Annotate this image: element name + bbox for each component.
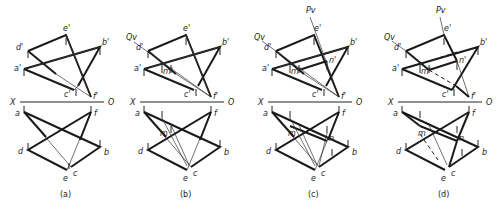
label-b-prime: b' [480,38,487,47]
axis-label-o: O [486,98,492,107]
label-pv: Pv [306,6,316,15]
label-m-prime: m' [421,67,431,76]
panel-c: Pv Qv d' e' b' a' m' n' c' f' X O m n a … [254,6,362,199]
label-b-prime: b' [102,38,109,47]
label-m: m [160,129,168,138]
label-pv: Pv [436,6,446,15]
label-c-prime: c' [184,90,191,99]
triangle-abc-front-edge [24,47,100,86]
label-d: d [18,147,24,156]
label-d: d [266,147,272,156]
label-e: e [183,174,188,183]
label-c-prime: c' [64,90,71,99]
label-c: c [193,169,198,178]
panel-a: d' e' b' a' c' f' X O a f d b e c (a) [9,24,114,199]
label-f-prime: f' [471,92,476,101]
label-a-prime: a' [14,64,21,73]
axis-label-x: X [129,98,136,107]
label-e-prime: e' [314,24,321,33]
axis-label-o: O [356,98,362,107]
intersection-segment [299,61,327,70]
label-n-prime: n' [459,56,466,65]
label-e: e [311,174,316,183]
panel-b: Qv d' e' b' a' m' c' f' X O a f m d b e … [126,24,234,199]
label-c-prime: c' [312,90,319,99]
label-qv: Qv [384,33,395,42]
edge [148,112,211,170]
label-m-prime: m' [163,67,173,76]
axis-label-x: X [257,98,264,107]
label-d-prime: d' [16,43,23,52]
caption-c: (c) [308,190,319,199]
label-b: b [104,148,109,157]
caption-d: (d) [438,190,449,199]
label-a: a [393,109,398,118]
label-b-prime: b' [222,38,229,47]
label-a-prime: a' [134,64,141,73]
label-b: b [224,148,229,157]
label-a: a [135,109,140,118]
label-c: c [73,169,78,178]
label-e-prime: e' [444,24,451,33]
label-a-prime: a' [262,64,269,73]
triangle-def-front-edge [28,51,56,74]
label-n-prime: n' [329,56,336,65]
label-f: f [342,109,346,118]
label-d-prime: d' [136,43,143,52]
label-e: e [441,174,446,183]
label-a: a [15,109,20,118]
label-a-prime: a' [392,64,399,73]
label-c: c [451,169,456,178]
label-m-prime: m' [291,67,301,76]
label-f-prime: f' [213,92,218,101]
label-f-prime: f' [341,92,346,101]
caption-b: (b) [180,190,191,199]
hidden-edge [429,70,456,86]
label-c-prime: c' [442,90,449,99]
label-a: a [263,109,268,118]
edge [144,47,220,86]
label-f: f [472,109,476,118]
label-e-prime: e' [183,24,190,33]
label-e: e [63,174,68,183]
label-n: n [329,134,334,143]
label-qv: Qv [254,33,265,42]
panel-d: Pv Qv d' e' b' a' m' n' c' f' X O m n a … [384,6,492,199]
label-b-prime: b' [350,38,357,47]
label-d: d [396,147,402,156]
label-n: n [459,134,464,143]
intersection-segment [429,61,457,70]
triangle-def-top-edge [28,112,91,170]
axis-label-x: X [387,98,394,107]
label-b: b [482,148,487,157]
label-qv: Qv [126,33,137,42]
axis-label-o: O [228,98,234,107]
axis-label-x: X [9,98,16,107]
label-b: b [352,148,357,157]
intersection-diagram: d' e' b' a' c' f' X O a f d b e c (a) [0,0,502,210]
label-d-prime: d' [264,43,271,52]
triangle-abc-front-edge [24,69,74,90]
label-d-prime: d' [394,43,401,52]
label-m: m [288,129,296,138]
edge [402,47,478,90]
label-f: f [214,109,218,118]
label-m: m [418,129,426,138]
label-f-prime: f' [93,92,98,101]
label-e-prime: e' [63,24,70,33]
label-d: d [138,147,144,156]
axis-label-o: O [108,98,114,107]
label-f: f [94,109,98,118]
label-c: c [321,169,326,178]
triangle-abc-top-edge [24,112,46,137]
caption-a: (a) [60,190,71,199]
